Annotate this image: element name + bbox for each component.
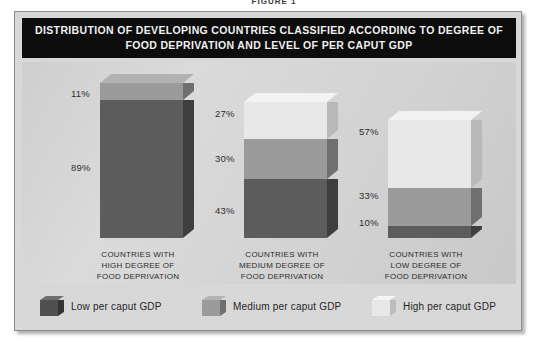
- bar-segment-low-low: [388, 226, 471, 238]
- stacked-bar-high-deprivation: [100, 83, 183, 238]
- bar-top-face-medium: [244, 93, 338, 102]
- bar-segment-medium-low: [388, 188, 471, 226]
- bar-side-medium-medium: [327, 139, 338, 179]
- bar-segment-high-low: [388, 120, 471, 188]
- category-medium-line-3: FOOD DEPRIVATION: [241, 272, 323, 281]
- figure-caption: FIGURE 1: [0, 0, 548, 5]
- bar-side-low-high: [183, 100, 194, 238]
- bar-label-medium-low: 33%: [359, 190, 379, 201]
- bar-side-high-low: [471, 120, 482, 188]
- bar-side-medium-high: [183, 83, 194, 100]
- bar-segment-low-high: [100, 100, 183, 238]
- plot-area: 11% 89% COUNTRIES WITH HIGH DEGREE OF FO…: [22, 62, 516, 284]
- bar-label-high-low: 57%: [359, 126, 379, 137]
- bar-label-low-high: 89%: [71, 162, 91, 173]
- chart-panel: DISTRIBUTION OF DEVELOPING COUNTRIES CLA…: [14, 11, 522, 331]
- bar-group-medium-deprivation: 27% 30% 43% COUNTRIES WITH MEDIUM DEGREE…: [218, 62, 346, 284]
- legend-swatch-medium-gdp-icon: [202, 296, 226, 316]
- bar-side-high-medium: [327, 102, 338, 139]
- bar-label-high-medium: 27%: [215, 108, 235, 119]
- category-high-line-2: HIGH DEGREE OF: [102, 261, 175, 270]
- legend-swatch-low-gdp-icon: [40, 296, 64, 316]
- category-label-medium-deprivation: COUNTRIES WITH MEDIUM DEGREE OF FOOD DEP…: [210, 249, 354, 282]
- legend-swatch-high-gdp-icon: [372, 296, 396, 316]
- chart-title-band: DISTRIBUTION OF DEVELOPING COUNTRIES CLA…: [22, 18, 516, 58]
- category-medium-line-1: COUNTRIES WITH: [245, 250, 318, 259]
- bar-top-face-high: [100, 74, 194, 83]
- category-label-high-deprivation: COUNTRIES WITH HIGH DEGREE OF FOOD DEPRI…: [66, 249, 210, 282]
- bar-segment-medium-medium: [244, 139, 327, 179]
- chart-title-line-1: DISTRIBUTION OF DEVELOPING COUNTRIES CLA…: [35, 24, 503, 36]
- category-label-low-deprivation: COUNTRIES WITH LOW DEGREE OF FOOD DEPRIV…: [354, 249, 498, 282]
- chart-legend: Low per caput GDP Medium per caput GDP H…: [22, 288, 516, 324]
- bar-group-low-deprivation: 57% 33% 10% COUNTRIES WITH LOW DEGREE OF…: [362, 62, 490, 284]
- bar-side-low-low: [471, 226, 482, 238]
- legend-label-high-gdp: High per caput GDP: [403, 301, 496, 312]
- bar-label-low-low: 10%: [359, 217, 379, 228]
- chart-title-line-2: FOOD DEPRIVATION AND LEVEL OF PER CAPUT …: [125, 39, 412, 51]
- bar-group-high-deprivation: 11% 89% COUNTRIES WITH HIGH DEGREE OF FO…: [74, 62, 202, 284]
- chart-title: DISTRIBUTION OF DEVELOPING COUNTRIES CLA…: [23, 23, 515, 53]
- bar-label-low-medium: 43%: [215, 205, 235, 216]
- legend-item-high-gdp[interactable]: High per caput GDP: [372, 296, 496, 316]
- legend-item-medium-gdp[interactable]: Medium per caput GDP: [202, 296, 342, 316]
- bar-label-medium-medium: 30%: [215, 153, 235, 164]
- category-low-line-2: LOW DEGREE OF: [391, 261, 462, 270]
- category-low-line-1: COUNTRIES WITH: [389, 250, 462, 259]
- stacked-bar-low-deprivation: [388, 120, 471, 238]
- bar-segment-high-medium: [244, 102, 327, 139]
- bar-label-medium-high: 11%: [71, 88, 90, 99]
- category-low-line-3: FOOD DEPRIVATION: [385, 272, 467, 281]
- category-high-line-3: FOOD DEPRIVATION: [97, 272, 179, 281]
- category-high-line-1: COUNTRIES WITH: [101, 250, 174, 259]
- bar-segment-low-medium: [244, 179, 327, 238]
- stacked-bar-medium-deprivation: [244, 102, 327, 238]
- bar-side-medium-low: [471, 188, 482, 226]
- bar-segment-medium-high: [100, 83, 183, 100]
- legend-label-medium-gdp: Medium per caput GDP: [233, 301, 342, 312]
- bar-side-low-medium: [327, 179, 338, 238]
- bar-top-face-low: [388, 111, 482, 120]
- legend-label-low-gdp: Low per caput GDP: [71, 301, 162, 312]
- category-medium-line-2: MEDIUM DEGREE OF: [239, 261, 325, 270]
- legend-item-low-gdp[interactable]: Low per caput GDP: [40, 296, 162, 316]
